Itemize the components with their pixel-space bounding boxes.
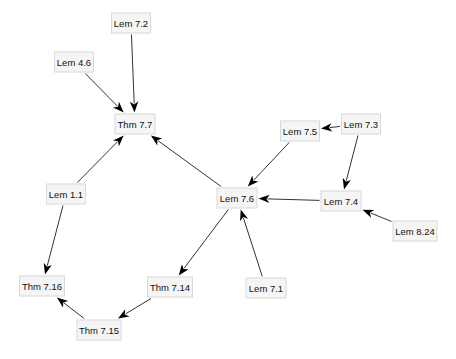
edge-lem46-to-thm77 [85,74,123,113]
edge-line [267,199,319,201]
edge-line [77,142,117,183]
edge-lem71-to-lem76 [240,210,262,277]
dependency-graph: Lem 7.2Lem 4.6Thm 7.7Lem 1.1Lem 7.6Lem 7… [0,0,456,359]
edge-line [158,141,221,187]
edge-line [346,136,358,181]
arrowhead-icon [57,298,68,308]
edge-line [131,35,134,104]
edge-line [330,126,340,127]
edge-line [126,299,151,314]
node-thm715[interactable]: Thm 7.15 [77,320,122,341]
node-thm77[interactable]: Thm 7.7 [115,114,156,135]
arrowhead-icon [179,264,189,275]
node-lem824[interactable]: Lem 8.24 [393,221,438,242]
edge-lem824-to-lem74 [363,210,392,222]
node-lem72[interactable]: Lem 7.2 [111,13,151,34]
node-thm716[interactable]: Thm 7.16 [19,276,65,297]
edge-line [184,210,228,269]
edge-thm715-to-thm716 [57,298,84,319]
edge-lem72-to-thm77 [130,35,138,113]
edge-lem74-to-lem76 [259,195,320,203]
node-thm714[interactable]: Thm 7.14 [147,277,193,298]
node-lem11[interactable]: Lem 1.1 [46,184,86,205]
node-lem73[interactable]: Lem 7.3 [341,114,381,135]
node-lem76[interactable]: Lem 7.6 [217,188,258,209]
edge-lem75-to-lem76 [248,143,289,187]
edge-line [64,303,84,319]
edge-lem73-to-lem74 [343,136,358,190]
edge-lem11-to-thm77 [77,136,123,183]
node-lem46[interactable]: Lem 4.6 [54,52,94,73]
edge-line [85,74,117,107]
edge-line [47,206,63,266]
edge-thm714-to-thm715 [118,299,151,319]
arrowhead-icon [151,136,162,146]
arrowhead-icon [118,309,130,318]
edge-line [243,218,262,276]
node-lem74[interactable]: Lem 7.4 [321,191,362,212]
edge-line [254,143,289,180]
node-lem75[interactable]: Lem 7.5 [280,121,320,142]
edge-line [371,213,392,221]
edge-lem76-to-thm77 [151,136,221,187]
edge-lem11-to-thm716 [44,206,63,275]
edge-lem73-to-lem75 [321,123,340,131]
node-lem71[interactable]: Lem 7.1 [246,278,287,299]
edge-lem76-to-thm714 [179,210,229,276]
